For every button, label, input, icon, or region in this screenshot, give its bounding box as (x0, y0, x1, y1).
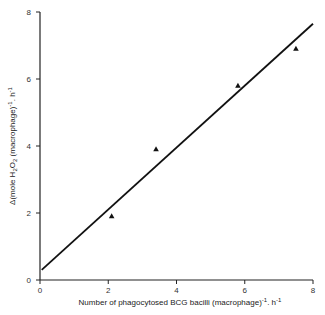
y-tick-label: 0 (27, 276, 32, 285)
x-tick-label: 0 (38, 286, 43, 295)
data-points (109, 46, 299, 219)
y-axis-title: Δ(mole H2O2 (macrophage)-1. h-1 (7, 86, 18, 205)
y-tick-label: 8 (27, 8, 32, 17)
triangle-marker (153, 146, 159, 151)
x-tick-label: 2 (106, 286, 111, 295)
regression-line (42, 24, 313, 270)
triangle-marker (235, 83, 241, 88)
y-tick-label: 2 (27, 209, 32, 218)
triangle-marker (109, 213, 115, 218)
x-ticks: 02468 (38, 280, 316, 295)
x-tick-label: 4 (174, 286, 179, 295)
y-tick-label: 4 (27, 142, 32, 151)
x-tick-label: 6 (243, 286, 248, 295)
chart: 02468 02468 Number of phagocytosed BCG b… (0, 0, 325, 315)
y-tick-label: 6 (27, 75, 32, 84)
x-axis-title: Number of phagocytosed BCG bacilli (macr… (79, 297, 282, 307)
y-ticks: 02468 (27, 8, 40, 285)
x-tick-label: 8 (311, 286, 316, 295)
triangle-marker (293, 46, 299, 51)
